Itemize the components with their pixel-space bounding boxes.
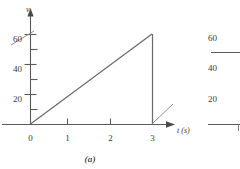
- series-v-of-t: [31, 34, 153, 125]
- y-axis-label: v: [26, 0, 30, 16]
- figure-caption: (a): [0, 148, 180, 166]
- velocity-time-chart: [0, 0, 240, 169]
- secondary-y-tick-label-20: 20: [208, 88, 217, 106]
- x-tick-label-3: 3: [147, 127, 158, 145]
- x-tick-label-1: 1: [62, 127, 73, 145]
- secondary-y-tick-label-60: 60: [208, 27, 217, 45]
- y-axis-minor-ticks: [31, 50, 38, 110]
- y-tick-label-60: 60: [7, 28, 22, 46]
- x-tick-label-0: 0: [25, 127, 36, 145]
- x-tick-label-2: 2: [105, 127, 116, 145]
- figure-panel-a: v 60 40 20 0 1 2 3 t (s) (a) 60 40 20: [0, 0, 240, 169]
- secondary-y-tick-label-40: 40: [208, 57, 217, 75]
- y-axis: [27, 8, 33, 125]
- x-axis-label: t (s): [177, 119, 190, 137]
- x-axis-ticks: [68, 119, 153, 125]
- y-tick-label-40: 40: [7, 58, 22, 76]
- y-tick-label-20: 20: [7, 88, 22, 106]
- scan-artifact-lines: [11, 31, 173, 124]
